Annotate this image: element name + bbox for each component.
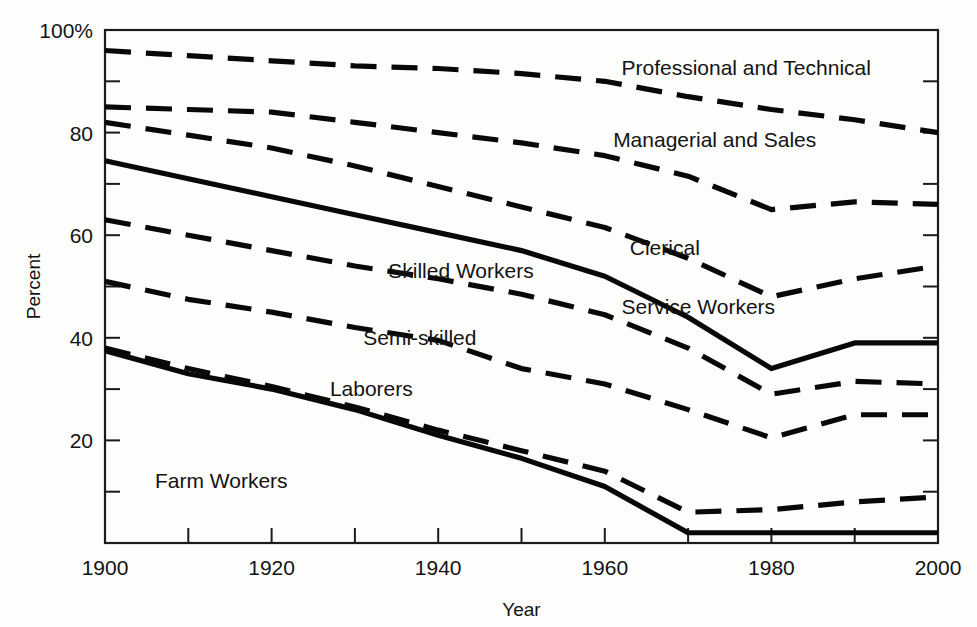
y-axis-title: Percent <box>23 253 44 319</box>
x-tick-label-1900: 1900 <box>82 556 129 579</box>
chart-figure: 20406080100%190019201940196019802000Year… <box>0 0 977 627</box>
series-label-service-workers: Service Workers <box>621 295 775 318</box>
series-label-managerial-and-sales: Managerial and Sales <box>613 128 816 151</box>
x-axis-title: Year <box>502 599 541 620</box>
series-line-semi-skilled <box>105 281 938 437</box>
series-label-skilled-workers: Skilled Workers <box>388 259 533 282</box>
plot-frame <box>105 30 938 543</box>
series-label-semi-skilled: Semi-skilled <box>363 326 476 349</box>
x-tick-label-1920: 1920 <box>248 556 295 579</box>
x-tick-label-1980: 1980 <box>748 556 795 579</box>
series-label-clerical: Clerical <box>630 236 700 259</box>
x-tick-label-2000: 2000 <box>915 556 962 579</box>
y-tick-label-100: 100% <box>39 19 93 42</box>
occupational-distribution-line-chart: 20406080100%190019201940196019802000Year… <box>0 0 977 627</box>
y-tick-label-20: 20 <box>70 429 93 452</box>
x-tick-label-1960: 1960 <box>581 556 628 579</box>
y-tick-label-60: 60 <box>70 224 93 247</box>
series-label-professional-and-technical: Professional and Technical <box>621 56 870 79</box>
x-tick-label-1940: 1940 <box>415 556 462 579</box>
y-tick-label-80: 80 <box>70 122 93 145</box>
series-label-farm-workers: Farm Workers <box>155 469 288 492</box>
series-label-laborers: Laborers <box>330 377 413 400</box>
y-tick-label-40: 40 <box>70 327 93 350</box>
series-line-managerial-and-sales <box>105 107 938 210</box>
